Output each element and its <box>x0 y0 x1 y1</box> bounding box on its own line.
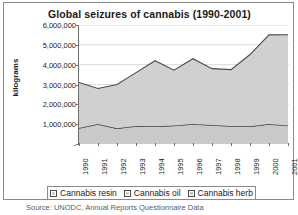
x-axis-tick-labels: 1990199119921993199419951996199719981999… <box>78 147 290 179</box>
legend-item[interactable]: Cannabis herb <box>188 188 253 198</box>
legend-label: Cannabis herb <box>198 188 253 198</box>
y-axis-tick: 6,000,000 <box>43 21 76 30</box>
source-caption: Source: UNODC, Annual Reports Questionna… <box>26 203 294 214</box>
y-axis-tick: 5,000,000 <box>43 40 76 49</box>
y-axis-tick: 4,000,000 <box>43 60 76 69</box>
y-tick-mark <box>76 124 79 125</box>
x-tick-mark <box>136 143 137 146</box>
y-tick-mark <box>76 65 79 66</box>
y-tick-mark <box>76 85 79 86</box>
x-axis-tick: 1994 <box>157 158 166 175</box>
chart-frame: Global seizures of cannabis (1990-2001) … <box>3 2 294 200</box>
y-axis-tick-labels: 6,000,0005,000,0004,000,0003,000,0002,00… <box>28 23 76 145</box>
y-axis-label: kilograms <box>11 48 20 108</box>
legend-item[interactable]: Cannabis oil <box>124 188 181 198</box>
x-axis-tick: 1993 <box>138 158 147 175</box>
x-tick-mark <box>231 143 232 146</box>
x-tick-mark <box>79 143 80 146</box>
x-tick-mark <box>155 143 156 146</box>
x-tick-mark <box>174 143 175 146</box>
legend-label: Cannabis oil <box>134 188 181 198</box>
y-axis-tick: 1,000,000 <box>43 120 76 129</box>
x-tick-mark <box>250 143 251 146</box>
y-tick-mark <box>76 104 79 105</box>
stacked-area-series <box>79 25 289 144</box>
legend-swatch-icon <box>124 190 131 197</box>
chart-title: Global seizures of cannabis (1990-2001) <box>4 8 295 20</box>
x-axis-tick: 1998 <box>233 158 242 175</box>
x-tick-mark <box>193 143 194 146</box>
legend-swatch-icon <box>50 190 57 197</box>
x-axis-tick: 1999 <box>252 158 261 175</box>
x-tick-mark <box>288 143 289 146</box>
x-axis-tick: 1991 <box>100 158 109 175</box>
area-band <box>79 35 288 129</box>
x-tick-mark <box>212 143 213 146</box>
plot-area <box>78 25 288 144</box>
legend-label: Cannabis resin <box>60 188 117 198</box>
x-axis-tick: 1990 <box>81 158 90 175</box>
x-axis-tick: 1995 <box>176 158 185 175</box>
chart-legend: Cannabis resinCannabis oilCannabis herb <box>47 186 256 200</box>
x-axis-tick: 1992 <box>119 158 128 175</box>
x-axis-tick: 1996 <box>195 158 204 175</box>
x-axis-tick: 2000 <box>271 158 280 175</box>
legend-swatch-icon <box>188 190 195 197</box>
x-axis-tick: 1997 <box>214 158 223 175</box>
y-tick-mark <box>76 25 79 26</box>
x-tick-mark <box>98 143 99 146</box>
x-tick-mark <box>117 143 118 146</box>
y-axis-tick: 2,000,000 <box>43 100 76 109</box>
chart-page: Global seizures of cannabis (1990-2001) … <box>0 0 298 215</box>
y-axis-tick: 3,000,000 <box>43 80 76 89</box>
y-tick-mark <box>76 45 79 46</box>
x-axis-tick: 2001 <box>290 158 298 175</box>
x-tick-mark <box>269 143 270 146</box>
legend-item[interactable]: Cannabis resin <box>50 188 117 198</box>
